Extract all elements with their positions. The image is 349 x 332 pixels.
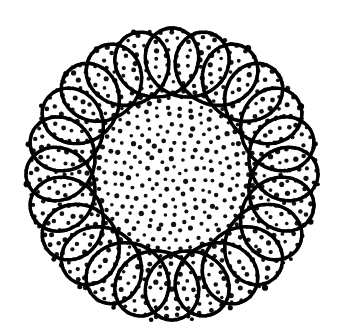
- dot-point: [162, 237, 166, 241]
- dot-point: [93, 83, 97, 87]
- curve-cusp-blob: [209, 32, 214, 37]
- dot-point: [144, 194, 148, 198]
- dot-point: [285, 191, 290, 196]
- curve-cusp-blob: [313, 142, 318, 147]
- dot-point: [103, 86, 107, 90]
- dot-point: [196, 140, 200, 144]
- dot-point: [138, 145, 142, 149]
- dot-point: [201, 35, 205, 39]
- dot-point: [218, 67, 222, 71]
- dot-point: [132, 44, 136, 48]
- dot-point: [279, 212, 284, 217]
- dot-point: [172, 141, 176, 145]
- dot-point: [254, 102, 258, 106]
- dot-point: [104, 76, 109, 81]
- dot-point: [169, 261, 174, 266]
- dot-point: [75, 242, 79, 246]
- dot-point: [81, 193, 85, 197]
- dot-point: [178, 172, 182, 176]
- dot-point: [265, 275, 270, 280]
- dot-point: [207, 127, 211, 131]
- dot-point: [181, 158, 185, 162]
- dot-point: [164, 177, 168, 181]
- dot-point: [182, 220, 186, 224]
- dot-point: [171, 222, 176, 227]
- dot-point: [139, 211, 144, 216]
- dot-point: [209, 302, 213, 306]
- dot-point: [88, 242, 92, 246]
- dot-point: [34, 167, 39, 172]
- dot-point: [73, 95, 78, 100]
- dot-point: [119, 287, 124, 292]
- dot-point: [119, 172, 124, 177]
- dot-point: [146, 138, 151, 143]
- dot-point: [220, 258, 225, 263]
- dot-point: [159, 125, 163, 129]
- dot-point: [208, 190, 212, 194]
- dot-point: [118, 129, 123, 134]
- dot-point: [68, 270, 72, 274]
- dot-point: [216, 135, 221, 140]
- dot-point: [115, 150, 120, 155]
- dot-point: [76, 77, 81, 82]
- dot-point: [191, 287, 196, 292]
- dot-point: [169, 147, 174, 152]
- dot-point: [208, 72, 213, 77]
- dot-point: [63, 162, 67, 166]
- dot-point: [131, 141, 136, 146]
- dot-point: [135, 76, 140, 81]
- dot-point: [113, 171, 118, 176]
- dot-point: [38, 155, 43, 160]
- dot-point: [254, 245, 258, 249]
- dot-point: [206, 45, 211, 50]
- dot-point: [165, 130, 169, 134]
- dot-point: [115, 211, 119, 215]
- dot-point: [60, 211, 65, 216]
- dot-point: [184, 168, 188, 172]
- dot-point: [220, 172, 224, 176]
- dot-point: [259, 109, 264, 114]
- dot-point: [169, 156, 174, 161]
- dot-point: [266, 240, 271, 245]
- dot-point: [167, 246, 171, 250]
- dot-point: [97, 155, 102, 160]
- curve-cusp-blob: [262, 285, 268, 291]
- dot-point: [63, 193, 67, 197]
- dot-point: [270, 98, 275, 103]
- dot-point: [200, 121, 204, 125]
- dot-point: [148, 178, 152, 182]
- dot-point: [120, 182, 124, 186]
- dot-point: [175, 306, 180, 311]
- dot-point: [151, 210, 156, 215]
- curve-cusp-blob: [190, 317, 194, 321]
- dot-point: [126, 39, 130, 43]
- dot-point: [223, 198, 227, 202]
- dot-point: [46, 155, 50, 159]
- dot-point: [136, 173, 140, 177]
- dot-point: [167, 112, 172, 117]
- dot-point: [138, 160, 142, 164]
- dot-point: [47, 186, 51, 190]
- dot-point: [227, 165, 232, 170]
- dot-point: [235, 184, 239, 188]
- dot-point: [106, 94, 110, 98]
- dot-point: [209, 168, 214, 173]
- dot-point: [268, 129, 273, 134]
- dot-point: [132, 226, 137, 231]
- dot-point: [210, 204, 215, 209]
- dot-point: [278, 161, 282, 165]
- dot-point: [300, 132, 304, 136]
- dot-point: [201, 189, 205, 193]
- dot-point: [178, 106, 182, 110]
- dot-point: [102, 170, 106, 174]
- dot-point: [126, 282, 130, 286]
- dot-point: [130, 205, 134, 209]
- dot-point: [158, 149, 163, 154]
- dot-point: [236, 172, 241, 177]
- dot-point: [152, 298, 156, 302]
- dot-point: [97, 73, 101, 77]
- dot-point: [203, 178, 207, 182]
- dot-point: [182, 141, 186, 145]
- dot-point: [154, 48, 159, 53]
- dot-point: [177, 113, 182, 118]
